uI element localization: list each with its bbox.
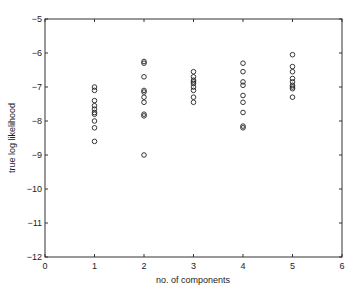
y-axis-label: true log likelihood <box>7 103 17 173</box>
x-tick-label: 0 <box>42 261 47 271</box>
y-tick-label: −12 <box>27 252 42 262</box>
y-tick-label: −8 <box>32 116 42 126</box>
x-tick-label: 5 <box>290 261 295 271</box>
y-tick-label: −11 <box>27 218 42 228</box>
y-tick-label: −9 <box>32 150 42 160</box>
x-tick-label: 1 <box>92 261 97 271</box>
x-tick-label: 6 <box>339 261 344 271</box>
y-tick-label: −7 <box>32 82 42 92</box>
y-tick-label: −6 <box>32 48 42 58</box>
x-tick-label: 3 <box>191 261 196 271</box>
scatter-chart: 0123456 −12−11−10−9−8−7−6−5 no. of compo… <box>0 0 364 291</box>
x-axis-label: no. of components <box>156 275 231 285</box>
y-tick-label: −10 <box>27 184 42 194</box>
x-tick-label: 2 <box>141 261 146 271</box>
y-tick-label: −5 <box>32 14 42 24</box>
plot-area <box>45 19 342 257</box>
x-tick-label: 4 <box>240 261 245 271</box>
